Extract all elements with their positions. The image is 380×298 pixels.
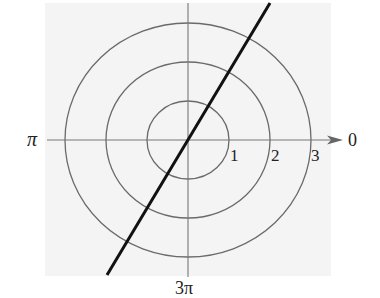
radius-label-3: 3 <box>311 147 320 164</box>
radius-label-1: 1 <box>230 147 239 164</box>
angle-label-three-pi-over-two: 3π <box>175 279 193 297</box>
angle-label-pi: π <box>27 129 37 149</box>
angle-label-zero: 0 <box>348 131 357 149</box>
radius-label-2: 2 <box>271 147 280 164</box>
